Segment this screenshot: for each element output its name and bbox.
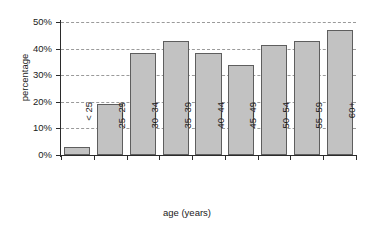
- x-axis-tick-label: 30–34: [148, 102, 161, 162]
- x-axis-tick-label: 35–39: [181, 102, 194, 162]
- y-axis-tick-label: 50%: [0, 16, 52, 27]
- x-axis-tick-label: < 25: [82, 102, 95, 162]
- gridline: [61, 22, 356, 23]
- x-axis-tick-label: 45–49: [246, 102, 259, 162]
- x-axis-title: age (years): [0, 207, 374, 218]
- x-axis-tick-label: 60+: [345, 102, 358, 162]
- y-axis-tick-label: 40%: [0, 43, 52, 54]
- y-axis-tick-label: 30%: [0, 69, 52, 80]
- x-axis-tick-label: 25–29: [115, 102, 128, 162]
- x-axis-tick-label: 55–59: [312, 102, 325, 162]
- bar-chart: percentage 0%10%20%30%40%50% < 2525–2930…: [0, 0, 374, 233]
- y-axis-tick-label: 10%: [0, 122, 52, 133]
- y-axis-tick-label: 20%: [0, 96, 52, 107]
- x-axis-tick-mark: [61, 155, 62, 160]
- y-axis-tick-label: 0%: [0, 149, 52, 160]
- x-axis-tick-label: 50–54: [279, 102, 292, 162]
- x-axis-tick-label: 40–44: [214, 102, 227, 162]
